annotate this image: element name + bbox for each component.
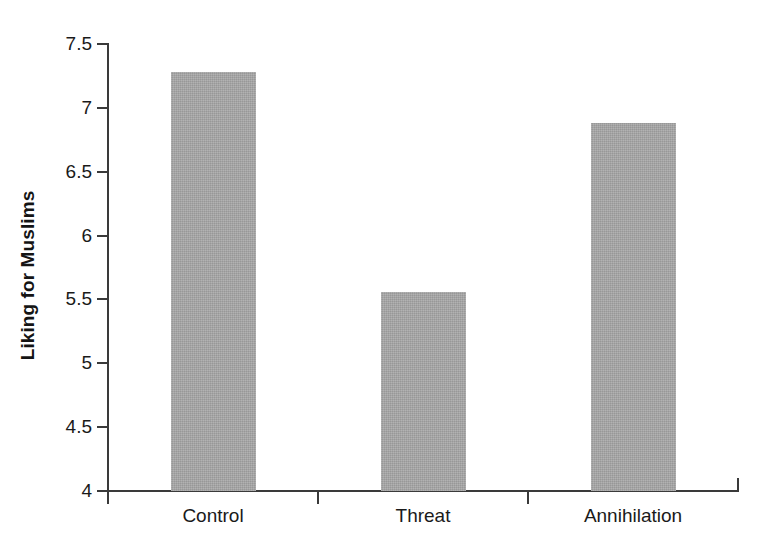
y-tick-label: 5.5 — [20, 289, 92, 308]
y-tick-mark — [97, 107, 108, 109]
y-axis-line — [107, 43, 109, 492]
y-tick-mark — [97, 426, 108, 428]
x-axis-end-tick — [737, 478, 739, 492]
x-tick-mark — [317, 492, 319, 504]
x-category-label: Annihilation — [528, 505, 738, 527]
y-tick-label: 6.5 — [20, 162, 92, 181]
bar-threat — [381, 292, 466, 491]
y-tick-mark — [97, 171, 108, 173]
y-tick-mark — [97, 298, 108, 300]
y-tick-label: 7 — [20, 98, 92, 117]
bar-annihilation — [591, 123, 676, 491]
y-tick-mark — [97, 362, 108, 364]
y-tick-label: 4.5 — [20, 417, 92, 436]
y-tick-label: 5 — [20, 353, 92, 372]
y-tick-label: 7.5 — [20, 34, 92, 53]
y-axis-title: Liking for Muslims — [0, 0, 56, 551]
x-category-label: Threat — [318, 505, 528, 527]
bar-control — [171, 72, 256, 491]
y-tick-mark — [97, 235, 108, 237]
y-tick-label: 6 — [20, 226, 92, 245]
bar-chart: Liking for Muslims 44.555.566.577.5 Cont… — [0, 0, 767, 551]
y-tick-mark — [97, 43, 108, 45]
y-tick-mark — [97, 490, 108, 492]
x-category-label: Control — [108, 505, 318, 527]
x-tick-mark — [527, 492, 529, 504]
y-tick-label: 4 — [20, 481, 92, 500]
